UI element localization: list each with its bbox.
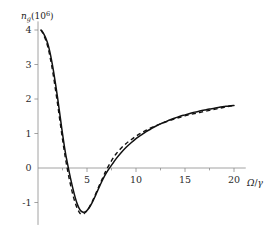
- plot-canvas: 5101520-101234 ng(106) Ω/γ: [0, 0, 273, 244]
- y-tick-label: 3: [25, 59, 31, 70]
- chart-figure: 5101520-101234 ng(106) Ω/γ: [0, 0, 273, 244]
- y-tick-label: 2: [25, 93, 31, 104]
- x-tick-label: 20: [228, 174, 240, 185]
- tick-labels-group: 5101520-101234: [22, 24, 240, 208]
- y-tick-label: 4: [25, 24, 31, 35]
- y-tick-label: 1: [25, 128, 31, 139]
- x-tick-label: 5: [84, 174, 90, 185]
- x-axis-label: Ω/γ: [246, 178, 264, 188]
- y-tick-label: -1: [22, 197, 31, 208]
- axes-group: [38, 21, 246, 225]
- y-tick-label: 0: [25, 162, 31, 173]
- y-axis-label: ng(106): [21, 10, 54, 23]
- curve-dashed: [41, 30, 234, 214]
- data-curves-group: [41, 30, 234, 214]
- x-tick-label: 10: [130, 174, 142, 185]
- x-tick-label: 15: [179, 174, 191, 185]
